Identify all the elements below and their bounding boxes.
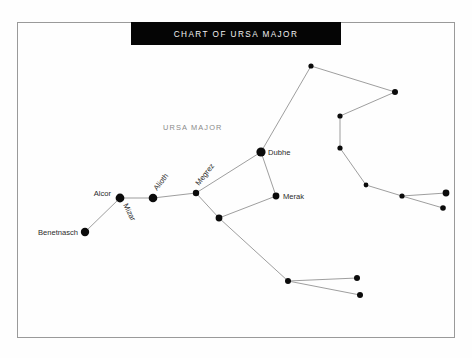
star-point-phecda: [216, 215, 223, 222]
constellation-line: [402, 196, 443, 208]
star-label-megrez: Megrez: [193, 162, 216, 188]
star-point-benetnasch: [81, 228, 89, 236]
constellation-line: [402, 193, 446, 196]
star-point-hind-fork: [285, 278, 291, 284]
chart-frame: [18, 23, 455, 338]
constellation-lines: [85, 66, 446, 295]
star-point-hind-up: [354, 275, 360, 281]
star-label-alioth: Alioth: [151, 172, 170, 193]
star-point-alioth: [149, 194, 158, 203]
star-point-neck-upper: [337, 113, 342, 118]
star-label-alcor: Alcor: [94, 189, 112, 198]
star-point-paw-tip-up: [443, 190, 450, 197]
star-point-dubhe: [256, 147, 265, 156]
constellation-line: [196, 193, 219, 218]
constellation-line: [219, 196, 276, 218]
star-label-mizar: Mizar: [121, 202, 138, 223]
star-point-mizar: [116, 194, 125, 203]
star-points: [81, 63, 450, 298]
constellation-name-label: URSA MAJOR: [163, 123, 223, 132]
star-point-merak: [273, 193, 280, 200]
constellation-line: [261, 152, 276, 196]
star-label-dubhe: Dubhe: [268, 148, 290, 157]
constellation-line: [288, 281, 360, 295]
constellation-canvas: BenetnaschMizarAlcorAliothMegrezDubheMer…: [0, 0, 472, 358]
star-point-paw-tip-dn: [440, 205, 446, 211]
star-point-paw-front: [364, 183, 369, 188]
constellation-line: [366, 185, 402, 196]
star-point-hind-dn: [357, 292, 363, 298]
star-point-upper-apex: [308, 63, 313, 68]
star-label-benetnasch: Benetnasch: [38, 228, 78, 237]
star-point-megrez: [193, 190, 199, 196]
constellation-line: [261, 66, 311, 152]
star-label-merak: Merak: [283, 192, 304, 201]
constellation-line: [219, 218, 288, 281]
constellation-line: [288, 278, 357, 281]
constellation-line: [311, 66, 395, 92]
title-banner-text: CHART OF URSA MAJOR: [174, 30, 299, 39]
constellation-line: [85, 198, 120, 232]
constellation-line: [153, 193, 196, 198]
constellation-line: [340, 148, 366, 185]
star-chart: BenetnaschMizarAlcorAliothMegrezDubheMer…: [0, 0, 472, 358]
star-point-right-apex: [392, 89, 398, 95]
constellation-line: [340, 92, 395, 116]
star-point-neck-lower: [337, 145, 342, 150]
star-point-paw-mid: [399, 193, 404, 198]
